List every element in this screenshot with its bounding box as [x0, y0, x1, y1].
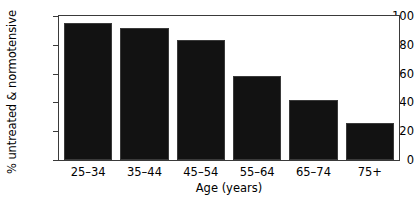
bar [64, 23, 112, 160]
x-axis-tick-label: 55–64 [229, 165, 285, 179]
bar [177, 40, 225, 160]
x-axis-tick-label: 65–74 [285, 165, 341, 179]
x-axis-title: Age (years) [58, 181, 400, 195]
x-axis-tick-label: 25–34 [60, 165, 116, 179]
bar [289, 100, 337, 160]
x-axis-tick-label: 45–54 [173, 165, 229, 179]
bar [120, 28, 168, 160]
x-axis-tick-label: 35–44 [116, 165, 172, 179]
bar-chart-figure: % untreated & normotensive 020406080100 … [0, 0, 414, 199]
bar [346, 123, 394, 160]
x-axis-tick-label: 75+ [342, 165, 398, 179]
y-axis-title: % untreated & normotensive [4, 14, 20, 174]
plot-area [60, 16, 398, 160]
bar [233, 76, 281, 160]
